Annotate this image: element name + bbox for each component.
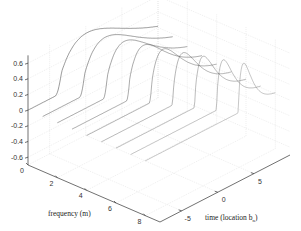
grid-lines xyxy=(28,0,290,216)
tick-label: -0.6 xyxy=(11,154,23,161)
wavelet-curve xyxy=(116,56,246,148)
frequency-axis-label: frequency (m) xyxy=(48,209,91,218)
tick-label: 0 xyxy=(19,107,23,114)
tick-label: 0 xyxy=(222,196,226,203)
waterfall-3d-plot: 0.60.40.20-0.2-0.4-0.602468-505 frequenc… xyxy=(0,0,301,231)
tick-label: -5 xyxy=(185,215,191,222)
tick-label: 0.2 xyxy=(13,91,23,98)
wavelet-curve xyxy=(87,49,217,136)
tick-label: 0 xyxy=(20,167,24,174)
wavelet-curve xyxy=(131,60,261,155)
time-axis-label: time (location bn) xyxy=(205,213,258,223)
wavelet-curve xyxy=(145,63,275,161)
tick-label: 0.4 xyxy=(13,75,23,82)
wavelet-curve xyxy=(57,40,187,123)
tick-label: 6 xyxy=(108,205,112,212)
tick-labels: 0.60.40.20-0.2-0.4-0.602468-505 xyxy=(11,60,262,225)
tick-label: 2 xyxy=(49,180,53,187)
tick-label: 5 xyxy=(258,178,262,185)
wavelet-curve xyxy=(28,26,158,110)
tick-label: 8 xyxy=(137,218,141,225)
tick-label: -0.4 xyxy=(11,138,23,145)
tick-label: -0.2 xyxy=(11,122,23,129)
tick-label: 0.6 xyxy=(13,60,23,67)
axes xyxy=(25,55,290,222)
wavelet-curve xyxy=(72,45,202,130)
tick-label: 4 xyxy=(79,192,83,199)
data-curves xyxy=(28,26,275,161)
wavelet-curve xyxy=(101,53,231,142)
